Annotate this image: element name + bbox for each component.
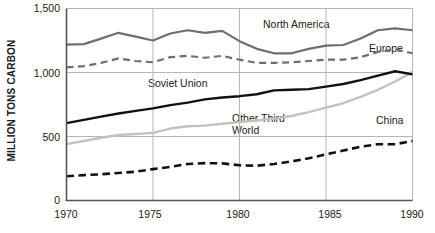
carbon-emissions-line-chart: MILLION TONS CARBON 1,500 1,000 500 0 19… [0,0,435,233]
chart-plot-svg [0,0,435,233]
